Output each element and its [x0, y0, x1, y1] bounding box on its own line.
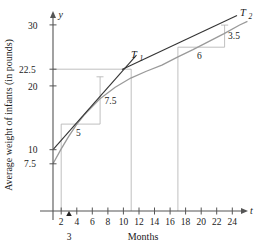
x-tick-label-6: 6 — [90, 217, 95, 227]
x-axis-arrowhead — [241, 208, 248, 214]
tangent-label-t2-subscript: 2 — [249, 12, 253, 21]
y-axis-arrowhead — [50, 11, 56, 18]
growth-curve — [53, 21, 247, 164]
x-tick-label-16: 16 — [165, 217, 175, 227]
x-tick-label-8: 8 — [106, 217, 111, 227]
y-axis-name-label: y — [58, 9, 64, 20]
chart-svg: Average weight of infants (in pounds) 7.… — [0, 0, 260, 245]
y-axis-title: Average weight of infants (in pounds) — [3, 39, 15, 191]
y-tick-label-22-5: 22.5 — [19, 65, 36, 75]
tangent-label-t1-subscript: 1 — [140, 54, 144, 63]
y-axis-title-text: Average weight of infants (in pounds) — [3, 39, 15, 191]
x-tick-label-4: 4 — [74, 217, 79, 227]
x-tick-label-24: 24 — [228, 217, 238, 227]
tangent-line-t1: T 1 — [53, 49, 143, 150]
x-marker-3-label: 3 — [67, 232, 72, 242]
y-tick-label-20: 20 — [28, 82, 38, 92]
x-axis-name-label: t — [250, 205, 253, 216]
y-tick-label-30: 30 — [28, 21, 38, 31]
y-tick-label-10: 10 — [28, 145, 38, 155]
x-marker-3-arrow — [66, 211, 72, 216]
tangent-path-t2 — [122, 16, 237, 70]
x-axis-title-text: Months — [128, 231, 159, 242]
x-tick-label-18: 18 — [181, 217, 191, 227]
tangent-label-t1: T — [131, 49, 138, 60]
y-tick-label-7-5: 7.5 — [24, 159, 36, 169]
x-tick-label-2: 2 — [59, 217, 64, 227]
slope-rise-label-t1: 7.5 — [105, 96, 117, 106]
slope-triangle-t1: 7.5 5 — [61, 77, 116, 138]
slope-rise-label-t2: 3.5 — [228, 31, 240, 41]
y-axis: y 30 22.5 20 10 7.5 — [19, 9, 64, 220]
x-tick-label-20: 20 — [196, 217, 206, 227]
x-tick-label-22: 22 — [212, 217, 222, 227]
weight-growth-chart-figure: Average weight of infants (in pounds) 7.… — [0, 0, 260, 245]
x-axis: t 2 4 6 8 10 12 14 16 18 20 22 — [40, 205, 253, 242]
x-tick-label-14: 14 — [150, 217, 160, 227]
slope-run-label-t2: 6 — [197, 51, 202, 61]
slope-run-label-t1: 5 — [76, 128, 81, 138]
curve-path — [53, 21, 247, 164]
x-tick-label-12: 12 — [134, 217, 144, 227]
x-tick-label-10: 10 — [119, 217, 129, 227]
tangent-label-t2: T — [240, 7, 247, 18]
